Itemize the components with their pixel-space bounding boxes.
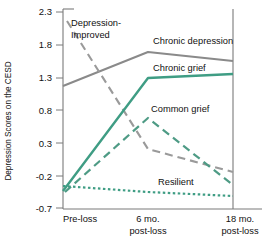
annotation-common-grief: Common grief: [151, 104, 210, 114]
depression-trajectories-line-chart: Depression Scores on the CESD 2.3 1.8 1.…: [0, 0, 274, 242]
chart-figure: Depression Scores on the CESD 2.3 1.8 1.…: [0, 0, 274, 242]
y-tick-label-0.3: 0.3: [39, 138, 52, 149]
annotation-depression-improved-line1: Depression-: [71, 18, 121, 28]
y-tick-marks: [56, 12, 63, 208]
y-tick-label-neg0.7: -0.7: [36, 203, 52, 214]
annotation-depression-improved-line2: Improved: [71, 30, 110, 40]
annotation-resilient: Resilient: [158, 177, 194, 187]
x-tick-label-6mo-line1: 6 mo.: [136, 214, 159, 224]
x-tick-label-18mo-line2: post-loss: [221, 226, 259, 236]
series-line-resilient: [63, 186, 233, 196]
y-tick-label-neg0.2: -0.2: [36, 171, 52, 182]
annotation-chronic-grief: Chronic grief: [153, 63, 206, 73]
annotation-chronic-depression: Chronic depression: [153, 36, 233, 46]
y-tick-label-1.8: 1.8: [39, 39, 52, 50]
series-line-chronic-depression: [63, 52, 233, 86]
x-tick-label-18mo-line1: 18 mo.: [226, 214, 254, 224]
y-tick-label-1.3: 1.3: [39, 72, 52, 83]
series-line-chronic-grief: [63, 74, 233, 191]
x-tick-label-preloss-line1: Pre-loss: [63, 214, 97, 224]
y-tick-label-2.3: 2.3: [39, 6, 52, 17]
y-tick-label-0.8: 0.8: [39, 105, 52, 116]
y-axis-title: Depression Scores on the CESD: [4, 61, 13, 180]
x-tick-label-6mo-line2: post-loss: [129, 226, 167, 236]
